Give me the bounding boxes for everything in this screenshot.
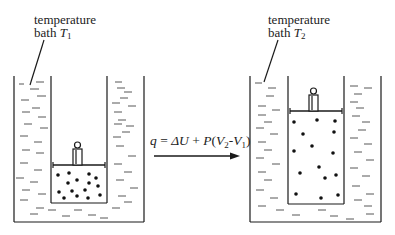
right-gas-molecules: [292, 118, 340, 200]
right-temp-symbol: T: [294, 25, 301, 40]
right-label-pointer: [264, 40, 278, 82]
eq-equals: =: [157, 133, 171, 148]
left-gas-molecules: [56, 171, 102, 200]
left-temp-symbol: T: [60, 25, 67, 40]
eq-v2: V: [216, 133, 224, 148]
right-label-bath-word: bath: [268, 25, 294, 40]
left-label-pointer: [30, 40, 44, 85]
right-temp-subscript: 2: [301, 31, 306, 41]
left-temp-subscript: 1: [67, 31, 72, 41]
eq-q: q: [150, 133, 157, 148]
left-bath-label: temperature bath T1: [34, 13, 96, 43]
eq-close-paren: ): [246, 133, 251, 148]
left-label-bath-word: bath: [34, 25, 60, 40]
left-weight-icon: [73, 142, 82, 165]
right-bath-label: temperature bath T2: [268, 13, 330, 43]
left-label-line2: bath T1: [34, 26, 96, 43]
right-weight-icon: [309, 88, 318, 111]
eq-delta-u: ΔU: [171, 133, 189, 148]
eq-plus: +: [189, 133, 203, 148]
left-cylinder: [51, 76, 107, 203]
right-label-line2: bath T2: [268, 26, 330, 43]
first-law-equation: q = ΔU + P(V2-V1): [150, 133, 250, 150]
arrowhead-icon: [230, 153, 240, 160]
